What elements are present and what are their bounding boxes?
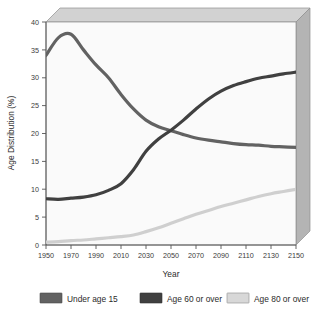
y-axis-title: Age Distribution (%) bbox=[6, 96, 16, 171]
x-tick-label: 1970 bbox=[63, 251, 79, 260]
y-tick-label: 15 bbox=[31, 157, 39, 166]
legend-label-under-age-15: Under age 15 bbox=[67, 294, 118, 304]
y-tick-label: 5 bbox=[35, 213, 39, 222]
y-tick-label: 25 bbox=[31, 101, 39, 110]
chart-legend: Under age 15 Age 60 or over Age 80 or ov… bbox=[40, 293, 309, 304]
frame-top-face bbox=[46, 8, 310, 22]
x-tick-label: 2090 bbox=[213, 251, 229, 260]
x-tick-label: 1950 bbox=[38, 251, 54, 260]
x-tick-label: 2010 bbox=[113, 251, 129, 260]
y-tick-label: 35 bbox=[31, 46, 39, 55]
y-tick-label: 10 bbox=[31, 185, 39, 194]
legend-label-age-80-or-over: Age 80 or over bbox=[254, 294, 309, 304]
x-tick-label: 2030 bbox=[138, 251, 154, 260]
plot-area-background bbox=[46, 22, 296, 245]
y-tick-label: 40 bbox=[31, 18, 39, 27]
legend-swatch-under-age-15 bbox=[40, 293, 62, 303]
x-tick-label: 2070 bbox=[188, 251, 204, 260]
legend-swatch-age-60-or-over bbox=[140, 293, 162, 303]
frame-right-face bbox=[296, 8, 310, 245]
x-tick-label: 2150 bbox=[288, 251, 304, 260]
legend-swatch-age-80-or-over bbox=[227, 293, 249, 303]
x-tick-label: 2050 bbox=[163, 251, 179, 260]
legend-label-age-60-or-over: Age 60 or over bbox=[167, 294, 222, 304]
x-tick-label: 1990 bbox=[88, 251, 104, 260]
y-tick-label: 0 bbox=[35, 241, 39, 250]
y-tick-label: 20 bbox=[31, 129, 39, 138]
x-tick-label: 2110 bbox=[238, 251, 253, 260]
chart-svg: 0 5 10 15 20 25 30 35 40 Age Distributio… bbox=[0, 0, 332, 321]
x-tick-label: 2130 bbox=[263, 251, 279, 260]
x-axis-title: Year bbox=[163, 269, 180, 279]
y-tick-label: 30 bbox=[31, 73, 39, 82]
population-age-distribution-chart: 0 5 10 15 20 25 30 35 40 Age Distributio… bbox=[0, 0, 332, 321]
x-axis-tick-labels: 1950 1970 1990 2010 2030 2050 2070 2090 … bbox=[38, 251, 304, 260]
